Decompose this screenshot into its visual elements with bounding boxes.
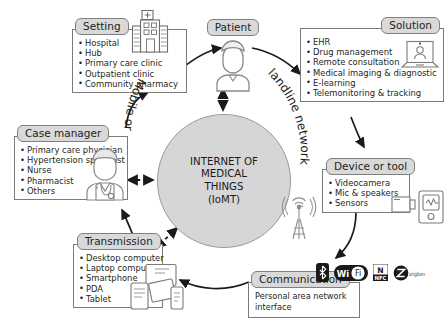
setting-label: Setting	[75, 18, 129, 35]
list-item: Primary care clinic	[78, 58, 182, 68]
laptop-video-consultation-icon	[396, 40, 444, 74]
iomt-center-label: INTERNET OF MEDICAL THINGS (IoMT)	[190, 156, 258, 206]
iomt-line-1: INTERNET OF	[190, 156, 258, 169]
arrow-solution-to-device	[351, 117, 364, 147]
arrow-device-to-communication	[336, 212, 356, 258]
list-item: Desktop computer	[79, 253, 158, 263]
list-item: Videocamera	[328, 178, 405, 188]
list-item: Community pharmacy	[78, 79, 182, 89]
nfc-text-bottom: NFC	[374, 275, 386, 281]
wifi-icon: Wi Fi	[334, 265, 368, 281]
zigbee-icon: zigbee	[393, 265, 425, 281]
iomt-line-3: THINGS	[190, 181, 258, 194]
patient-person-icon	[205, 37, 261, 93]
hospital-icon	[130, 9, 172, 57]
wifi-text-right: Fi	[355, 269, 361, 278]
iomt-line-4: (IoMT)	[190, 194, 258, 207]
arrow-communication-to-transmission	[180, 280, 249, 289]
node-transmission[interactable]: Transmission Desktop computer Laptop com…	[73, 230, 163, 308]
wifi-text-left: Wi	[337, 268, 349, 278]
diagram-canvas: Mobile or landline network INTERNET OF M…	[0, 0, 448, 325]
node-solution[interactable]: Solution EHR Drug management Remote cons…	[300, 14, 444, 102]
communication-badges: Wi Fi N NFC zigbee	[316, 263, 425, 282]
nfc-icon: N NFC	[373, 264, 388, 281]
list-item: Telemonitoring & tracking	[306, 88, 439, 98]
cell-tower-icon	[280, 195, 318, 247]
list-item: E-learning	[306, 78, 439, 88]
node-device-or-tool[interactable]: Device or tool Videocamera Mic & speaker…	[322, 155, 415, 213]
solution-label: Solution	[381, 17, 440, 34]
list-item: Outpatient clinic	[78, 69, 182, 79]
transmission-label: Transmission	[77, 233, 161, 250]
devices-icon	[128, 263, 188, 311]
iomt-line-2: MEDICAL	[190, 168, 258, 181]
zigbee-text: zigbee	[409, 271, 425, 278]
camera-monitor-icon	[390, 189, 448, 231]
iomt-center-circle: INTERNET OF MEDICAL THINGS (IoMT)	[157, 114, 291, 248]
patient-label: Patient	[207, 19, 260, 36]
arrow-casemanager-to-setting	[126, 92, 148, 127]
communication-subtitle: Personal area network interface	[249, 287, 359, 317]
node-case-manager[interactable]: Case manager Primary care physician Hype…	[14, 122, 128, 200]
device-label: Device or tool	[326, 158, 415, 175]
case-manager-label: Case manager	[17, 125, 109, 142]
node-setting[interactable]: Setting Hospital Hub Primary care clinic…	[72, 15, 187, 93]
bluetooth-icon	[316, 263, 329, 282]
doctor-icon	[79, 148, 131, 202]
node-patient[interactable]: Patient	[205, 16, 261, 93]
nfc-text-top: N	[377, 266, 383, 275]
